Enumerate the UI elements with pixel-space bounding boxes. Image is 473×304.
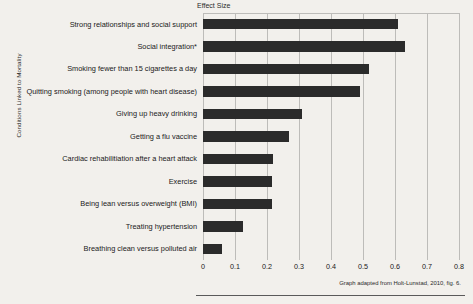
bar-row: Smoking fewer than 15 cigarettes a day bbox=[203, 58, 459, 80]
bar-category-label: Being lean versus overweight (BMI) bbox=[80, 200, 197, 207]
bar-row: Social integration* bbox=[203, 35, 459, 57]
x-tick-label: 0.5 bbox=[358, 262, 368, 271]
bar-row: Treating hypertension bbox=[203, 215, 459, 237]
bar bbox=[203, 19, 398, 30]
bar-row: Cardiac rehabilitiation after a heart at… bbox=[203, 148, 459, 170]
bar bbox=[203, 109, 302, 120]
x-axis: 00.10.20.30.40.50.60.70.8 bbox=[203, 262, 459, 276]
x-tick-label: 0.7 bbox=[422, 262, 432, 271]
bar bbox=[203, 64, 369, 75]
source-attribution: Graph adapted from Holt-Lunstad, 2010, f… bbox=[339, 280, 461, 286]
bar-row: Quitting smoking (among people with hear… bbox=[203, 80, 459, 102]
bar-row: Strong relationships and social support bbox=[203, 13, 459, 35]
bar bbox=[203, 41, 405, 52]
chart-container: Conditions Linked to Mortality Effect Si… bbox=[0, 0, 473, 304]
x-tick-label: 0.4 bbox=[326, 262, 336, 271]
bar-category-label: Smoking fewer than 15 cigarettes a day bbox=[67, 65, 197, 72]
chart-title: Effect Size bbox=[197, 2, 230, 9]
x-tick-label: 0 bbox=[201, 262, 205, 271]
bar bbox=[203, 154, 273, 165]
bottom-divider bbox=[196, 295, 465, 296]
bar bbox=[203, 221, 243, 232]
bar-row: Breathing clean versus polluted air bbox=[203, 238, 459, 260]
bar-category-label: Giving up heavy drinking bbox=[116, 110, 197, 117]
bar bbox=[203, 176, 272, 187]
bar-category-label: Getting a flu vaccine bbox=[130, 133, 197, 140]
bar-row: Being lean versus overweight (BMI) bbox=[203, 193, 459, 215]
bar-row: Exercise bbox=[203, 170, 459, 192]
y-axis-title: Conditions Linked to Mortality bbox=[15, 26, 22, 166]
bar bbox=[203, 86, 360, 97]
bar bbox=[203, 244, 222, 255]
bar-category-label: Treating hypertension bbox=[126, 223, 197, 230]
x-tick-label: 0.2 bbox=[262, 262, 272, 271]
x-tick-label: 0.8 bbox=[454, 262, 464, 271]
bar-category-label: Breathing clean versus polluted air bbox=[84, 245, 197, 252]
bar-category-label: Social integration* bbox=[137, 43, 197, 50]
bar bbox=[203, 199, 272, 210]
x-tick-label: 0.6 bbox=[390, 262, 400, 271]
bar-row: Getting a flu vaccine bbox=[203, 125, 459, 147]
bar-category-label: Exercise bbox=[169, 178, 197, 185]
bar-row: Giving up heavy drinking bbox=[203, 103, 459, 125]
x-tick-label: 0.3 bbox=[294, 262, 304, 271]
bar-category-label: Quitting smoking (among people with hear… bbox=[27, 88, 198, 95]
gridline-0.8 bbox=[459, 13, 460, 260]
plot-area: Strong relationships and social supportS… bbox=[203, 13, 459, 260]
bar-category-label: Strong relationships and social support bbox=[70, 21, 197, 28]
bar-category-label: Cardiac rehabilitiation after a heart at… bbox=[62, 155, 197, 162]
x-tick-label: 0.1 bbox=[230, 262, 240, 271]
bar-rows: Strong relationships and social supportS… bbox=[203, 13, 459, 260]
bar bbox=[203, 131, 289, 142]
